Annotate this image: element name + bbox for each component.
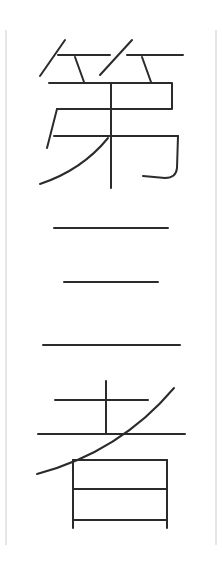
- char-san: [43, 228, 180, 345]
- calligraphy-canvas: [0, 0, 222, 565]
- char-di: [40, 40, 183, 188]
- char-zhe: [37, 381, 185, 528]
